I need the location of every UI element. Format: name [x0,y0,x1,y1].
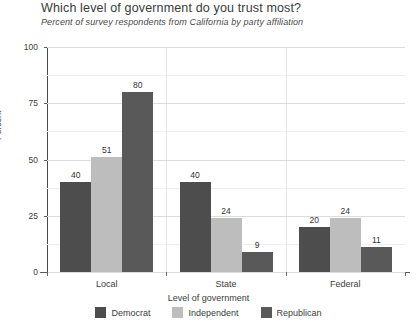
gridline-horizontal [47,47,405,48]
legend-item-republican[interactable]: Republican [261,307,322,318]
bar-republican-state [242,252,273,272]
bar-value-label: 11 [372,235,381,245]
x-tick-mark [47,272,48,276]
x-tick-mark [166,272,167,276]
bar-independent-state [211,218,242,272]
bar-value-label: 24 [221,206,230,216]
bar-value-label: 80 [133,80,142,90]
y-tick-label: 25 [4,211,38,221]
bar-independent-local [91,157,122,272]
y-tick-mark [44,47,47,48]
bar-value-label: 40 [71,170,80,180]
gridline-horizontal [47,272,405,273]
gridline-horizontal [47,103,405,104]
bar-independent-federal [330,218,361,272]
chart-subtitle: Percent of survey respondents from Calif… [41,17,303,27]
legend-swatch-republican [261,307,272,318]
x-tick-mark [286,272,287,276]
bar-democrat-state [180,182,211,272]
chart-title: Which level of government do you trust m… [41,1,301,15]
y-tick-label: 0 [4,267,38,277]
bar-democrat-local [60,182,91,272]
bar-republican-local [122,92,153,272]
bar-democrat-federal [299,227,330,272]
bar-value-label: 40 [190,170,199,180]
y-tick-mark [44,216,47,217]
bar-value-label: 9 [255,240,260,250]
legend-label-republican: Republican [277,308,322,318]
y-tick-mark [44,160,47,161]
gridline-horizontal [47,75,405,76]
gridline-horizontal [47,131,405,132]
legend-item-democrat[interactable]: Democrat [95,307,150,318]
legend-swatch-democrat [95,307,106,318]
x-axis-title: Level of government [0,293,417,303]
plot-area: 40518040249202411 [47,47,405,272]
bar-republican-federal [361,247,392,272]
legend-item-independent[interactable]: Independent [172,307,238,318]
legend-label-independent: Independent [188,308,238,318]
bar-value-label: 51 [102,145,111,155]
y-tick-label: 100 [4,42,38,52]
y-tick-label: 50 [4,155,38,165]
bar-value-label: 20 [310,215,319,225]
bar-value-label: 24 [341,206,350,216]
y-tick-mark [44,103,47,104]
chart-figure: Which level of government do you trust m… [0,0,417,328]
legend-swatch-independent [172,307,183,318]
chart-legend: DemocratIndependentRepublican [0,307,417,318]
y-tick-label: 75 [4,98,38,108]
x-category-label-federal: Federal [330,279,361,289]
y-axis-title: Percent [0,111,3,140]
x-category-label-local: Local [96,279,118,289]
x-tick-mark [405,272,406,276]
x-category-label-state: State [215,279,236,289]
legend-label-democrat: Democrat [111,308,150,318]
